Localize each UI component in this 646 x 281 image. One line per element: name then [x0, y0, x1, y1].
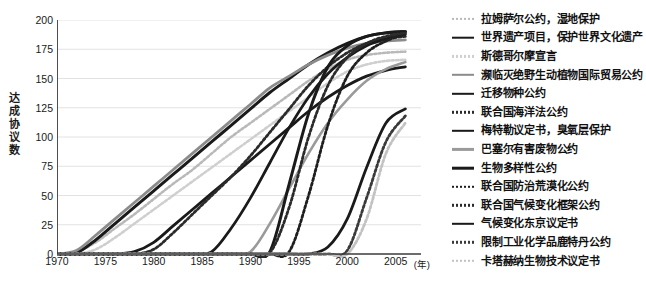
legend-line-swatch	[452, 31, 474, 45]
legend-line-swatch	[452, 105, 474, 119]
legend-item[interactable]: 濒临灭绝野生动植物国际贸易公约	[452, 66, 646, 85]
y-axis-tick-labels: 0255075100125150175200	[0, 0, 53, 281]
y-axis-tick-label: 125	[23, 103, 53, 113]
legend-item-label: 拉姆萨尔公约，湿地保护	[481, 13, 600, 26]
x-axis-tick-label: 1995	[287, 256, 310, 267]
y-axis-tick-label: 50	[23, 191, 53, 201]
legend-item[interactable]: 拉姆萨尔公约，湿地保护	[452, 10, 646, 29]
legend-item[interactable]: 卡塔赫纳生物技术议定书	[452, 252, 646, 271]
legend-line-swatch	[452, 87, 474, 101]
x-axis-tick-label: 1970	[45, 256, 68, 267]
series-line	[57, 32, 405, 255]
y-axis-tick-label: 150	[23, 74, 53, 84]
legend-line-swatch	[452, 235, 474, 249]
legend-line-swatch	[452, 12, 474, 26]
legend-item[interactable]: 联合国海洋法公约	[452, 103, 646, 122]
legend-line-swatch	[452, 180, 474, 194]
legend-item[interactable]: 气候变化东京议定书	[452, 215, 646, 234]
legend-line-swatch	[452, 254, 474, 268]
chart-figure: 达成协议数 0255075100125150175200 19701975198…	[0, 0, 646, 281]
x-axis-tick-label: 1975	[94, 256, 117, 267]
legend-line-swatch	[452, 161, 474, 175]
legend-item-label: 斯德哥尔摩宣言	[481, 50, 557, 63]
x-axis-tick-label: 2000	[336, 256, 359, 267]
legend-item-label: 迁移物种公约	[481, 87, 546, 100]
y-axis-tick-label: 175	[23, 44, 53, 54]
legend-item-label: 联合国气候变化框架公约	[481, 199, 600, 212]
legend-item-label: 气候变化东京议定书	[481, 217, 578, 230]
legend-item[interactable]: 生物多样性公约	[452, 159, 646, 178]
legend-item-label: 联合国防治荒漠化公约	[481, 180, 589, 193]
y-axis-tick-label: 75	[23, 161, 53, 171]
legend-item[interactable]: 世界遗产项目，保护世界文化遗产	[452, 29, 646, 48]
legend-line-swatch	[452, 49, 474, 63]
series-line	[57, 62, 405, 254]
legend-line-swatch	[452, 217, 474, 231]
legend-item[interactable]: 斯德哥尔摩宣言	[452, 47, 646, 66]
legend-item[interactable]: 联合国防治荒漠化公约	[452, 177, 646, 196]
legend-line-swatch	[452, 68, 474, 82]
x-axis-tick-label: 1985	[190, 256, 213, 267]
y-axis-tick-label: 100	[23, 132, 53, 142]
legend-item[interactable]: 迁移物种公约	[452, 84, 646, 103]
legend-item-label: 世界遗产项目，保护世界文化遗产	[481, 31, 643, 44]
plot-area	[57, 20, 415, 254]
legend-line-swatch	[452, 142, 474, 156]
legend-item[interactable]: 巴塞尔有害废物公约	[452, 140, 646, 159]
x-axis-tick-label: 1990	[239, 256, 262, 267]
legend-item-label: 生物多样性公约	[481, 162, 557, 175]
legend-item-label: 濒临灭绝野生动植物国际贸易公约	[481, 69, 643, 82]
legend-line-swatch	[452, 124, 474, 138]
y-axis-tick-label: 200	[23, 15, 53, 25]
series-line	[57, 40, 405, 254]
x-axis-tick-label: 1980	[142, 256, 165, 267]
y-axis-tick-label: 25	[23, 220, 53, 230]
legend-item[interactable]: 梅特勒议定书，臭氧层保护	[452, 122, 646, 141]
legend-item[interactable]: 限制工业化学品鹿特丹公约	[452, 233, 646, 252]
legend-item-label: 巴塞尔有害废物公约	[481, 143, 578, 156]
legend-item-label: 梅特勒议定书，臭氧层保护	[481, 124, 611, 137]
legend: 拉姆萨尔公约，湿地保护世界遗产项目，保护世界文化遗产斯德哥尔摩宣言濒临灭绝野生动…	[452, 10, 646, 281]
x-axis-unit-label: (年)	[414, 257, 430, 271]
x-axis-tick-label: 2005	[384, 256, 407, 267]
gridlines	[57, 20, 421, 225]
data-series-group	[57, 32, 405, 258]
legend-item[interactable]: 联合国气候变化框架公约	[452, 196, 646, 215]
legend-item-label: 联合国海洋法公约	[481, 106, 567, 119]
legend-line-swatch	[452, 198, 474, 212]
legend-item-label: 限制工业化学品鹿特丹公约	[481, 236, 611, 249]
legend-item-label: 卡塔赫纳生物技术议定书	[481, 255, 600, 268]
